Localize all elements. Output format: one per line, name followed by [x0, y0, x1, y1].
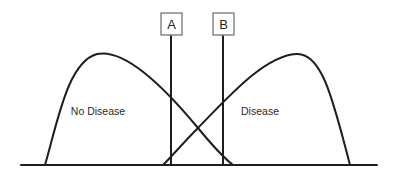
no-disease-label: No Disease [71, 105, 125, 117]
threshold-a-label: A [167, 17, 176, 32]
distribution-diagram: A B No Disease Disease [0, 0, 396, 175]
threshold-a: A [161, 13, 182, 165]
threshold-b-label: B [219, 17, 228, 32]
threshold-b: B [213, 13, 234, 165]
disease-label: Disease [241, 105, 279, 117]
